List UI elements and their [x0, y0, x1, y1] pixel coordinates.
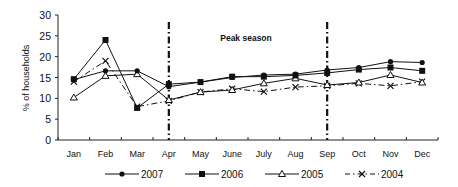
- legend-label: 2006: [221, 169, 244, 180]
- x-tick-label: Sep: [319, 149, 335, 159]
- legend: 2007200620052004: [105, 169, 404, 180]
- y-tick-label: 15: [39, 72, 51, 84]
- y-tick-label: 25: [39, 30, 51, 42]
- legend-item-2005: 2005: [265, 169, 324, 180]
- x-tick-label: June: [222, 149, 242, 159]
- circle-marker-icon: [230, 75, 235, 80]
- circle-marker-icon: [71, 77, 76, 82]
- square-marker-icon: [103, 37, 109, 43]
- y-tick-label: 5: [45, 113, 51, 125]
- series-line: [74, 62, 422, 87]
- x-tick-label: Mar: [129, 149, 145, 159]
- circle-marker-icon: [261, 72, 266, 77]
- x-tick-label: Nov: [382, 149, 399, 159]
- legend-label: 2005: [301, 169, 324, 180]
- circle-marker-icon: [356, 65, 361, 70]
- y-tick-label: 20: [39, 51, 51, 63]
- circle-marker-icon: [198, 79, 203, 84]
- triangle-marker-icon: [387, 72, 394, 78]
- circle-marker-icon: [420, 60, 425, 65]
- peak-season-label: Peak season: [220, 33, 272, 43]
- legend-label: 2007: [141, 169, 164, 180]
- legend-item-2004: 2004: [345, 169, 404, 180]
- circle-marker-icon: [388, 59, 393, 64]
- square-marker-icon: [199, 171, 205, 177]
- circle-marker-icon: [293, 72, 298, 77]
- x-tick-label: Aug: [287, 149, 303, 159]
- legend-item-2007: 2007: [105, 169, 164, 180]
- series-2006: [71, 37, 425, 111]
- y-axis-ticks: 051015202530: [39, 9, 58, 146]
- legend-item-2006: 2006: [185, 169, 244, 180]
- x-tick-label: May: [192, 149, 210, 159]
- y-tick-label: 30: [39, 9, 51, 21]
- series-line: [74, 74, 422, 100]
- legend-label: 2004: [381, 169, 404, 180]
- circle-marker-icon: [119, 171, 124, 176]
- x-tick-label: Dec: [414, 149, 431, 159]
- circle-marker-icon: [135, 68, 140, 73]
- triangle-marker-icon: [70, 94, 77, 100]
- x-tick-label: Feb: [98, 149, 114, 159]
- series-2007: [71, 59, 425, 89]
- circle-marker-icon: [166, 84, 171, 89]
- y-tick-label: 10: [39, 92, 51, 104]
- circle-marker-icon: [325, 67, 330, 72]
- square-marker-icon: [134, 105, 140, 111]
- x-tick-label: Oct: [352, 149, 367, 159]
- y-axis-label: % of households: [21, 44, 31, 111]
- square-marker-icon: [419, 68, 425, 74]
- line-chart: 051015202530 JanFebMarAprMayJuneJulyAugS…: [0, 0, 458, 187]
- series-line: [74, 40, 422, 108]
- series-lines: [70, 37, 425, 111]
- y-tick-label: 0: [45, 134, 51, 146]
- x-tick-label: Apr: [162, 149, 176, 159]
- circle-marker-icon: [103, 68, 108, 73]
- square-marker-icon: [388, 65, 394, 71]
- series-2004: [71, 58, 425, 110]
- x-tick-label: Jan: [67, 149, 82, 159]
- x-tick-label: July: [256, 149, 273, 159]
